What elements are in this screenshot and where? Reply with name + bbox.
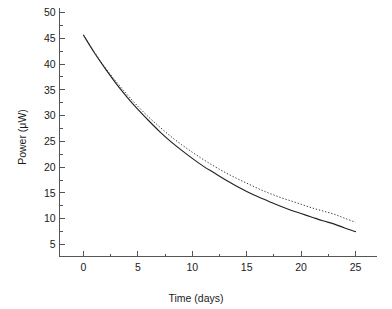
x-tick-label: 20 — [295, 261, 307, 273]
y-tick-label: 45 — [44, 32, 56, 44]
y-tick-label: 5 — [50, 238, 56, 250]
y-tick-label: 50 — [44, 6, 56, 18]
y-tick-label: 20 — [44, 161, 56, 173]
y-tick-label: 35 — [44, 84, 56, 96]
x-tick-label: 10 — [186, 261, 198, 273]
y-axis-title: Power (μW) — [16, 109, 28, 165]
y-tick-label: 10 — [44, 212, 56, 224]
y-tick-label: 40 — [44, 58, 56, 70]
x-axis-title: Time (days) — [168, 292, 223, 304]
y-tick-label: 25 — [44, 135, 56, 147]
power-decay-chart: 0510152025 5101520253035404550 Time (day… — [0, 0, 392, 309]
x-tick-label: 25 — [350, 261, 362, 273]
chart-figure: 0510152025 5101520253035404550 Time (day… — [0, 0, 392, 309]
x-tick-label: 0 — [81, 261, 87, 273]
x-tick-label: 15 — [241, 261, 253, 273]
x-tick-label: 5 — [135, 261, 141, 273]
y-tick-label: 30 — [44, 109, 56, 121]
y-tick-label: 15 — [44, 187, 56, 199]
